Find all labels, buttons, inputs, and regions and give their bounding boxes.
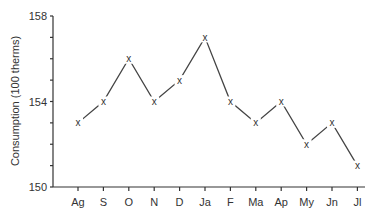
x-marker-icon: x — [152, 96, 157, 107]
x-marker-icon: x — [304, 139, 309, 150]
x-tick-label: Jl — [353, 196, 361, 208]
x-marker-icon: x — [330, 117, 335, 128]
x-tick-label: S — [100, 196, 107, 208]
x-tick-label: Ag — [71, 196, 84, 208]
x-marker-icon: x — [355, 160, 360, 171]
x-marker-icon: x — [279, 96, 284, 107]
y-axis-title: Consumption (100 therms) — [9, 36, 21, 166]
x-tick-label: Jn — [326, 196, 338, 208]
x-marker-icon: x — [228, 96, 233, 107]
x-tick-label: Ma — [248, 196, 264, 208]
x-marker-icon: x — [177, 75, 182, 86]
line-chart: Consumption (100 therms) 150154158 AgSON… — [0, 0, 373, 222]
x-tick-label: O — [125, 196, 134, 208]
x-marker-icon: x — [76, 117, 81, 128]
y-tick-label: 154 — [29, 96, 47, 108]
x-tick-label: Ja — [199, 196, 212, 208]
y-axis-ticks: 150154158 — [29, 10, 53, 193]
x-tick-label: F — [227, 196, 234, 208]
x-tick-label: My — [299, 196, 314, 208]
x-marker-icon: x — [126, 53, 131, 64]
y-tick-label: 158 — [29, 10, 47, 22]
x-marker-icon: x — [253, 117, 258, 128]
x-marker-icon: x — [203, 32, 208, 43]
x-tick-label: N — [150, 196, 158, 208]
data-line — [78, 37, 357, 165]
x-tick-label: Ap — [274, 196, 287, 208]
data-markers: xxxxxxxxxxxx — [73, 32, 362, 171]
x-tick-label: D — [176, 196, 184, 208]
x-marker-icon: x — [101, 96, 106, 107]
y-tick-label: 150 — [29, 181, 47, 193]
x-axis-ticks: AgSONDJaFMaApMyJnJl — [71, 187, 361, 208]
